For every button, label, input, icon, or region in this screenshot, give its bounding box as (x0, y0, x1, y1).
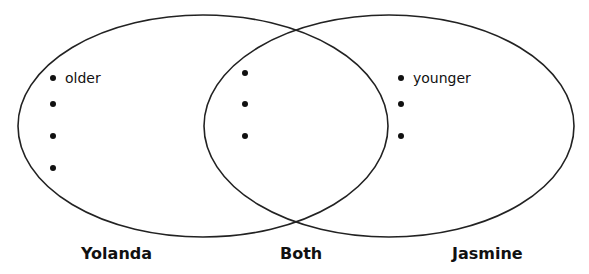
bullet-icon (50, 165, 56, 171)
bullet-icon (50, 133, 56, 139)
both-item-2 (242, 101, 257, 107)
bullet-icon (50, 75, 56, 81)
yolanda-item-1: older (50, 70, 101, 86)
bullet-icon (398, 101, 404, 107)
jasmine-circle (204, 15, 574, 237)
jasmine-item-3 (398, 133, 413, 139)
yolanda-label: Yolanda (81, 244, 152, 263)
yolanda-item-4 (50, 165, 65, 171)
bullet-icon (242, 101, 248, 107)
yolanda-item-3 (50, 133, 65, 139)
venn-diagram (0, 0, 589, 274)
jasmine-label: Jasmine (452, 244, 523, 263)
jasmine-item-2 (398, 101, 413, 107)
bullet-icon (242, 70, 248, 76)
yolanda-item-2 (50, 101, 65, 107)
bullet-icon (398, 133, 404, 139)
item-text: older (65, 70, 101, 86)
jasmine-item-1: younger (398, 70, 471, 86)
both-label: Both (280, 244, 322, 263)
both-item-1 (242, 70, 257, 76)
bullet-icon (242, 133, 248, 139)
item-text: younger (413, 70, 471, 86)
both-item-3 (242, 133, 257, 139)
yolanda-circle (18, 15, 388, 237)
bullet-icon (50, 101, 56, 107)
bullet-icon (398, 75, 404, 81)
